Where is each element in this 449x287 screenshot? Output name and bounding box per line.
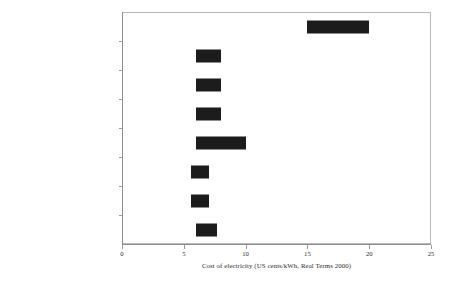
bar-row	[122, 12, 431, 41]
x-axis-tick	[246, 245, 247, 249]
y-axis-tick	[119, 215, 123, 216]
range-bar	[191, 165, 208, 178]
y-axis-tick	[119, 70, 123, 71]
x-axis-line	[122, 244, 431, 245]
x-axis-tick-label: 20	[354, 250, 384, 257]
y-axis-tick	[119, 157, 123, 158]
y-axis-tick	[119, 186, 123, 187]
x-axis-tick	[369, 245, 370, 249]
range-bar	[307, 20, 369, 33]
y-axis-tick	[119, 99, 123, 100]
x-axis-tick-label: 10	[231, 250, 261, 257]
y-axis-tick	[119, 41, 123, 42]
chart-figure: Cost of electricity (US cents/kWh, Real …	[0, 0, 449, 287]
bar-row	[122, 70, 431, 99]
range-bar	[196, 136, 245, 149]
range-bar	[196, 107, 221, 120]
plot-area	[122, 12, 431, 244]
y-axis-tick	[119, 128, 123, 129]
range-bar	[196, 223, 217, 236]
x-axis-tick	[431, 245, 432, 249]
range-bar	[191, 194, 208, 207]
bar-row	[122, 215, 431, 244]
x-axis-tick-label: 0	[107, 250, 137, 257]
bar-row	[122, 128, 431, 157]
x-axis-tick	[122, 245, 123, 249]
bar-row	[122, 186, 431, 215]
x-axis-tick-label: 5	[169, 250, 199, 257]
range-bar	[196, 49, 221, 62]
x-axis-title: Cost of electricity (US cents/kWh, Real …	[122, 262, 431, 269]
range-bar	[196, 78, 221, 91]
x-axis-tick	[307, 245, 308, 249]
x-axis-tick	[184, 245, 185, 249]
x-axis-tick-label: 15	[292, 250, 322, 257]
bar-row	[122, 157, 431, 186]
x-axis-tick-label: 25	[416, 250, 446, 257]
bar-row	[122, 99, 431, 128]
bar-row	[122, 41, 431, 70]
